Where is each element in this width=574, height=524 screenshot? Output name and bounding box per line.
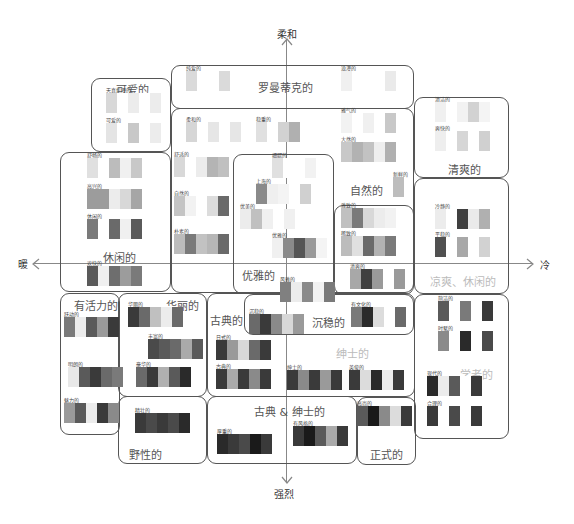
- color-swatch: [174, 157, 185, 177]
- color-swatch: [468, 209, 479, 229]
- palette-label: 天真烂漫的: [106, 86, 131, 93]
- color-swatch: [373, 307, 384, 327]
- group-title-elegant: 优雅的: [242, 267, 275, 283]
- color-swatch: [172, 307, 183, 327]
- palette-label: 爽快的: [435, 124, 450, 131]
- color-palette: [174, 196, 229, 216]
- color-swatch: [109, 158, 120, 178]
- color-swatch: [98, 266, 109, 286]
- color-swatch: [395, 307, 406, 327]
- color-swatch: [446, 131, 457, 151]
- color-swatch: [457, 237, 468, 257]
- color-palette: [87, 219, 142, 239]
- color-swatch: [157, 413, 168, 433]
- color-swatch: [208, 122, 219, 142]
- color-swatch: [260, 314, 271, 334]
- color-swatch: [349, 370, 360, 390]
- color-swatch: [341, 71, 352, 91]
- color-swatch: [363, 142, 374, 162]
- color-swatch: [446, 209, 457, 229]
- color-swatch: [238, 369, 249, 389]
- color-swatch: [313, 282, 324, 302]
- color-swatch: [471, 301, 482, 321]
- color-swatch: [446, 237, 457, 257]
- color-palette: [128, 307, 183, 327]
- color-swatch: [361, 269, 372, 289]
- palette-label: 稀致的: [341, 229, 356, 236]
- color-swatch: [112, 367, 123, 387]
- color-swatch: [352, 113, 363, 133]
- color-swatch: [146, 413, 157, 433]
- color-swatch: [87, 189, 98, 209]
- color-swatch: [108, 403, 119, 423]
- color-swatch: [449, 406, 460, 426]
- color-swatch: [147, 367, 158, 387]
- arrow-left-icon: [32, 258, 40, 270]
- palette-label: 舒畅的: [87, 151, 102, 158]
- color-palette: [341, 236, 396, 256]
- palette-label: 古典的: [216, 362, 231, 369]
- color-swatch: [117, 93, 128, 113]
- color-swatch: [305, 158, 316, 178]
- color-swatch: [287, 370, 298, 390]
- color-palette: [174, 157, 229, 177]
- color-swatch: [294, 158, 305, 178]
- color-swatch: [341, 142, 352, 162]
- color-palette: [186, 71, 230, 91]
- color-swatch: [98, 219, 109, 239]
- color-swatch: [482, 331, 493, 351]
- color-palette: [64, 403, 119, 423]
- group-title-romantic: 罗曼蒂克的: [258, 79, 313, 95]
- color-swatch: [196, 196, 207, 216]
- color-swatch: [438, 406, 449, 426]
- color-swatch: [170, 339, 181, 359]
- color-swatch: [219, 71, 230, 91]
- color-swatch: [352, 208, 363, 228]
- color-swatch: [352, 71, 363, 91]
- palette-label: 魅力的: [64, 396, 79, 403]
- color-swatch: [139, 123, 150, 143]
- color-palette: [216, 340, 271, 360]
- color-palette: [186, 122, 241, 142]
- color-swatch: [460, 331, 471, 351]
- color-swatch: [230, 122, 241, 142]
- palette-label: 新鲜的: [393, 170, 408, 177]
- color-swatch: [256, 122, 267, 142]
- color-swatch: [468, 237, 479, 257]
- group-title-classic-gentleman: 古典 & 绅士的: [254, 403, 325, 419]
- palette-label: 雅气的: [341, 106, 356, 113]
- palette-label: 休闲的: [87, 212, 102, 219]
- color-swatch: [218, 234, 229, 254]
- color-swatch: [374, 208, 385, 228]
- palette-label: 自然的: [174, 189, 189, 196]
- color-swatch: [352, 142, 363, 162]
- color-palette: [341, 142, 396, 162]
- palette-label: 柔和的: [186, 115, 201, 122]
- color-palette: [393, 177, 404, 197]
- color-swatch: [197, 71, 208, 91]
- color-swatch: [185, 234, 196, 254]
- color-swatch: [109, 219, 120, 239]
- color-swatch: [79, 367, 90, 387]
- color-palette: [427, 406, 482, 426]
- color-swatch: [293, 426, 304, 446]
- group-title-formal: 正式的: [370, 446, 403, 462]
- color-palette: [435, 209, 490, 229]
- color-swatch: [278, 122, 289, 142]
- color-swatch: [284, 209, 295, 229]
- arrow-up-icon: [281, 38, 293, 46]
- color-swatch: [98, 189, 109, 209]
- palette-label: 大然的: [341, 135, 356, 142]
- palette-label: 稳重的: [256, 115, 271, 122]
- color-swatch: [240, 209, 251, 229]
- palette-label: 厚重的: [217, 427, 232, 434]
- color-swatch: [363, 208, 374, 228]
- color-swatch: [468, 102, 479, 122]
- color-swatch: [120, 266, 131, 286]
- arrow-down-icon: [281, 476, 293, 484]
- color-swatch: [228, 434, 239, 454]
- color-swatch: [324, 282, 335, 302]
- color-swatch: [316, 238, 327, 258]
- color-swatch: [238, 340, 249, 360]
- color-swatch: [374, 142, 385, 162]
